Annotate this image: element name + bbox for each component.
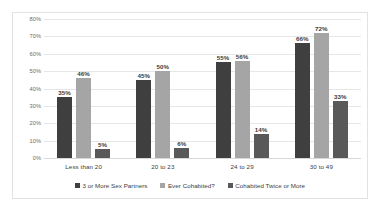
bar-value-label: 5%	[98, 141, 107, 148]
bar-value-label: 33%	[334, 93, 347, 100]
bar[interactable]	[174, 148, 189, 158]
bar-group: 55%56%14%	[203, 19, 282, 158]
y-axis-tick: 50%	[30, 68, 42, 74]
bar[interactable]	[216, 62, 231, 158]
bar[interactable]	[295, 43, 310, 158]
bar-slot: 35%	[57, 19, 72, 158]
plot-wrapper: 0%10%20%30%40%50%60%70%80% 35%46%5%45%50…	[13, 13, 367, 198]
bar-value-label: 56%	[236, 53, 249, 60]
legend-label: Cohabited Twice or More	[235, 182, 305, 189]
bar-slot: 14%	[254, 19, 269, 158]
y-axis-tick: 70%	[30, 33, 42, 39]
x-axis-category-label: 30 to 49	[282, 160, 361, 174]
bar-slot: 6%	[174, 19, 189, 158]
y-axis-tick: 60%	[30, 51, 42, 57]
bar[interactable]	[314, 33, 329, 158]
bar[interactable]	[76, 78, 91, 158]
y-axis-tick: 40%	[30, 86, 42, 92]
legend-swatch-icon	[75, 183, 80, 188]
bar-value-label: 55%	[217, 54, 230, 61]
chart-legend: 3 or More Sex PartnersEver Cohabited?Coh…	[13, 178, 367, 192]
bar[interactable]	[155, 71, 170, 158]
bar[interactable]	[136, 80, 151, 158]
y-axis-tick: 20%	[30, 120, 42, 126]
y-axis: 0%10%20%30%40%50%60%70%80%	[17, 19, 41, 158]
x-axis-category-label: 20 to 23	[123, 160, 202, 174]
bar-value-label: 6%	[177, 140, 186, 147]
y-axis-tick: 80%	[30, 16, 42, 22]
gridline	[44, 158, 361, 159]
x-axis: Less than 2020 to 2324 to 2930 to 49	[44, 160, 361, 174]
legend-label: Ever Cohabited?	[168, 182, 215, 189]
bar[interactable]	[57, 97, 72, 158]
bar-value-label: 66%	[296, 35, 309, 42]
bar-slot: 56%	[235, 19, 250, 158]
bar-groups: 35%46%5%45%50%6%55%56%14%66%72%33%	[44, 19, 361, 158]
x-axis-category-label: Less than 20	[44, 160, 123, 174]
x-axis-category-label: 24 to 29	[203, 160, 282, 174]
bar-group: 66%72%33%	[282, 19, 361, 158]
bar-value-label: 72%	[315, 25, 328, 32]
legend-label: 3 or More Sex Partners	[82, 182, 147, 189]
bar-slot: 66%	[295, 19, 310, 158]
legend-item[interactable]: Ever Cohabited?	[160, 182, 214, 189]
bar-slot: 45%	[136, 19, 151, 158]
bar-slot: 55%	[216, 19, 231, 158]
bar[interactable]	[235, 61, 250, 158]
bar-value-label: 46%	[77, 70, 90, 77]
y-axis-tick: 30%	[30, 103, 42, 109]
bar-group: 35%46%5%	[44, 19, 123, 158]
bar-slot: 33%	[333, 19, 348, 158]
y-axis-tick: 10%	[30, 138, 42, 144]
legend-swatch-icon	[160, 183, 165, 188]
bar-value-label: 14%	[255, 126, 268, 133]
legend-item[interactable]: Cohabited Twice or More	[228, 182, 305, 189]
bar-value-label: 45%	[138, 72, 151, 79]
bar-slot: 72%	[314, 19, 329, 158]
bar[interactable]	[254, 134, 269, 158]
legend-item[interactable]: 3 or More Sex Partners	[75, 182, 148, 189]
plot-area: 35%46%5%45%50%6%55%56%14%66%72%33%	[44, 19, 361, 158]
bar-group: 45%50%6%	[123, 19, 202, 158]
bar-slot: 50%	[155, 19, 170, 158]
legend-swatch-icon	[228, 183, 233, 188]
chart-container: 0%10%20%30%40%50%60%70%80% 35%46%5%45%50…	[12, 12, 368, 199]
bar-slot: 5%	[95, 19, 110, 158]
bar[interactable]	[333, 101, 348, 158]
bar-value-label: 50%	[157, 63, 170, 70]
bar[interactable]	[95, 149, 110, 158]
bar-slot: 46%	[76, 19, 91, 158]
y-axis-tick: 0%	[33, 155, 41, 161]
bar-value-label: 35%	[58, 89, 71, 96]
